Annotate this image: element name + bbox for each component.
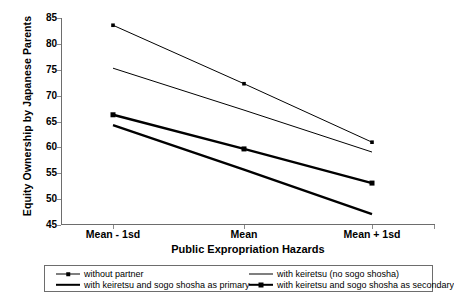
x-axis-tick-mark	[113, 225, 114, 229]
y-axis-tick-label: 55	[31, 168, 57, 178]
legend-item-sogo-shosha-primary: with keiretsu and sogo shosha as primary	[55, 280, 250, 290]
y-axis-tick-mark	[57, 18, 61, 19]
y-axis-tick-labels: 858075706560555045	[31, 0, 57, 304]
plot-area	[61, 18, 435, 225]
y-axis-tick-label: 70	[31, 91, 57, 101]
series-layer	[61, 18, 435, 225]
y-axis-tick-mark	[57, 225, 61, 226]
y-axis-tick-label: 75	[31, 65, 57, 75]
legend-item-with-keiretsu-no-sogo-shosha: with keiretsu (no sogo shosha)	[248, 269, 399, 279]
legend-item-sogo-shosha-secondary: with keiretsu and sogo shosha as seconda…	[248, 280, 454, 290]
y-axis-tick-label: 80	[31, 39, 57, 49]
legend-label: with keiretsu (no sogo shosha)	[277, 269, 399, 279]
x-axis-title: Public Expropriation Hazards	[61, 243, 435, 255]
legend-swatch-line-icon	[248, 269, 274, 279]
data-point-marker	[242, 82, 246, 86]
x-axis-tick-mark	[244, 225, 245, 229]
x-axis-tick-label: Mean + 1sd	[344, 228, 401, 240]
legend-label: with keiretsu and sogo shosha as primary	[84, 280, 250, 290]
y-axis-tick-mark	[57, 199, 61, 200]
y-axis-tick-mark	[57, 44, 61, 45]
line-chart: Equity Ownership by Japanese Parents 858…	[0, 0, 454, 304]
data-point-marker	[370, 140, 374, 144]
x-axis-end-tick-mark	[434, 225, 435, 229]
y-axis-line	[61, 18, 62, 225]
series-line-3	[113, 125, 372, 214]
x-axis-tick-mark	[372, 225, 373, 229]
legend-swatch-thick-line-icon	[55, 280, 81, 290]
legend-label: with keiretsu and sogo shosha as seconda…	[277, 280, 454, 290]
y-axis-tick-mark	[57, 173, 61, 174]
data-point-marker	[111, 112, 116, 117]
chart-legend: without partner with keiretsu (no sogo s…	[44, 265, 433, 292]
data-point-marker	[111, 23, 115, 27]
legend-item-without-partner: without partner	[55, 269, 144, 279]
y-axis-tick-mark	[57, 122, 61, 123]
y-axis-tick-label: 60	[31, 142, 57, 152]
data-point-marker	[242, 146, 247, 151]
legend-swatch-thick-line-marker-icon	[248, 280, 274, 290]
y-axis-tick-label: 45	[31, 220, 57, 230]
y-axis-tick-mark	[57, 70, 61, 71]
x-axis-line	[61, 224, 435, 225]
y-axis-tick-label: 50	[31, 194, 57, 204]
x-axis-tick-labels: Mean - 1sdMeanMean + 1sd	[61, 228, 435, 244]
y-axis-tick-mark	[57, 96, 61, 97]
x-axis-tick-label: Mean	[231, 228, 258, 240]
data-point-marker	[370, 181, 375, 186]
legend-label: without partner	[84, 269, 144, 279]
x-axis-tick-label: Mean - 1sd	[86, 228, 140, 240]
y-axis-tick-label: 65	[31, 117, 57, 127]
y-axis-tick-label: 85	[31, 13, 57, 23]
y-axis-tick-mark	[57, 147, 61, 148]
legend-swatch-line-marker-icon	[55, 269, 81, 279]
